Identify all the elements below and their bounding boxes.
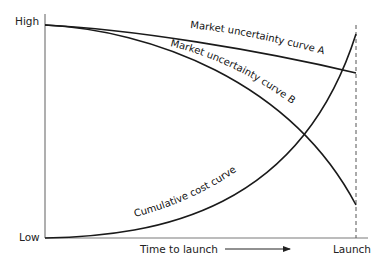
- chart-canvas: Market uncertainty curve A Market uncert…: [0, 0, 384, 265]
- x-axis-label: Time to launch: [139, 243, 218, 255]
- y-high-label: High: [15, 15, 39, 27]
- cost-curve: [45, 34, 356, 238]
- cost-curve-label: Cumulative cost curve: [133, 163, 238, 218]
- launch-label: Launch: [333, 243, 371, 255]
- y-low-label: Low: [19, 231, 40, 243]
